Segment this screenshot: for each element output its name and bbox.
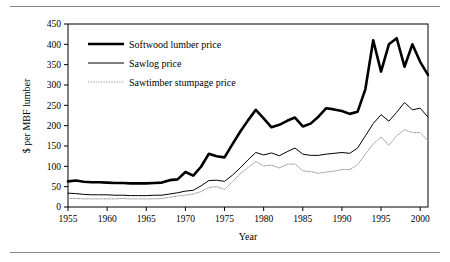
- legend-label-1: Sawlog price: [129, 58, 182, 69]
- y-tick-label: 50: [52, 182, 62, 192]
- y-tick-label: 100: [47, 162, 62, 172]
- y-tick-label: 300: [47, 80, 62, 90]
- chart-plot-area: 050100150200250300350400450 195519601965…: [0, 0, 450, 262]
- y-axis-ticks: [64, 24, 68, 207]
- y-tick-label: 200: [47, 121, 62, 131]
- y-tick-label: 350: [47, 60, 62, 70]
- x-tick-label: 1960: [98, 214, 117, 224]
- y-axis-title: $ per MBF lumber: [21, 78, 32, 153]
- y-tick-label: 0: [56, 202, 61, 212]
- x-axis-tick-labels: 1955196019651970197519801985199019952000: [59, 214, 430, 224]
- x-tick-label: 1995: [372, 214, 391, 224]
- x-tick-label: 1965: [137, 214, 156, 224]
- x-tick-label: 1980: [254, 214, 273, 224]
- x-tick-label: 1955: [59, 214, 78, 224]
- x-tick-label: 1970: [176, 214, 195, 224]
- x-axis-ticks: [68, 207, 420, 211]
- figure-container: 050100150200250300350400450 195519601965…: [0, 0, 450, 262]
- x-tick-label: 1990: [332, 214, 351, 224]
- legend-label-2: Sawtimber stumpage price: [129, 77, 236, 88]
- y-tick-label: 400: [47, 40, 62, 50]
- x-tick-label: 1985: [293, 214, 312, 224]
- y-tick-label: 150: [47, 141, 62, 151]
- plot-frame: [68, 24, 428, 207]
- y-tick-label: 250: [47, 101, 62, 111]
- y-axis-tick-labels: 050100150200250300350400450: [47, 19, 62, 212]
- x-axis-title: Year: [239, 231, 258, 242]
- legend-label-0: Softwood lumber price: [129, 39, 222, 50]
- x-tick-label: 1975: [215, 214, 234, 224]
- x-tick-label: 2000: [411, 214, 430, 224]
- y-tick-label: 450: [47, 19, 62, 29]
